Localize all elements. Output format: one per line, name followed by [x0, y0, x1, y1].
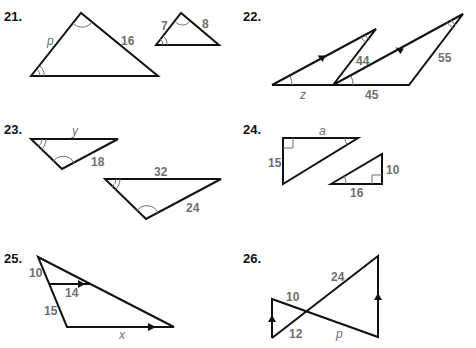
angle-mark-double — [38, 139, 42, 147]
side-label: 10 — [29, 266, 43, 280]
side-label: 45 — [365, 88, 379, 102]
side-label: z — [299, 88, 306, 102]
problem-24: 24. a 15 10 16 — [243, 122, 400, 200]
problem-26: 26. 10 24 12 p — [243, 251, 382, 341]
angle-mark-single — [290, 76, 292, 85]
large-triangle — [38, 257, 174, 327]
angle-mark-single — [73, 22, 92, 27]
triangle-1 — [31, 139, 118, 169]
right-triangle-2 — [331, 154, 382, 184]
side-label: 16 — [121, 34, 135, 48]
angle-mark-single — [175, 21, 190, 25]
parallel-arrow — [318, 54, 327, 62]
angle-mark-single — [345, 138, 347, 145]
side-label: 12 — [289, 327, 303, 341]
angle-mark-single — [351, 76, 353, 85]
side-label: 15 — [268, 156, 282, 170]
problem-number: 26. — [243, 251, 261, 266]
angle-mark-double — [40, 66, 44, 76]
angle-mark-double — [163, 36, 167, 45]
right-angle-mark — [372, 175, 382, 184]
problem-25: 25. 10 14 15 x — [4, 251, 174, 342]
problem-22: 22. z 44 45 55 — [243, 9, 463, 102]
problem-21: 21. p 16 7 8 — [4, 9, 219, 76]
side-label: 32 — [154, 165, 168, 179]
problem-number: 23. — [4, 122, 22, 137]
side-label: 24 — [186, 201, 200, 215]
right-angle-mark — [283, 138, 293, 148]
side-label: y — [71, 124, 79, 138]
problem-23: 23. y 18 32 24 — [4, 122, 221, 219]
side-label: 55 — [438, 51, 452, 65]
overlapping-triangles — [272, 14, 463, 85]
parallel-arrow — [148, 323, 156, 331]
angle-mark-double — [447, 22, 453, 28]
side-label: 16 — [350, 186, 364, 200]
side-label: 14 — [65, 286, 79, 300]
problem-number: 24. — [243, 122, 261, 137]
side-label: x — [118, 328, 126, 342]
side-label: 10 — [386, 163, 400, 177]
parallel-arrow — [268, 315, 276, 322]
side-label: 15 — [44, 304, 58, 318]
side-label: 10 — [286, 290, 300, 304]
problem-number: 21. — [4, 9, 22, 24]
angle-mark-double-inner — [37, 69, 40, 76]
angle-mark-single — [344, 176, 346, 184]
side-label: 24 — [331, 270, 345, 284]
side-label: 8 — [202, 17, 209, 31]
side-label: 18 — [91, 155, 105, 169]
parallel-arrow — [374, 293, 382, 300]
side-label: 44 — [356, 54, 370, 68]
angle-mark-double — [361, 37, 367, 43]
geometry-problems-figure: 21. p 16 7 8 22. z 44 45 55 23. — [0, 0, 476, 348]
side-label: p — [335, 327, 343, 341]
side-label: a — [319, 124, 326, 138]
angle-mark-double — [112, 179, 116, 187]
problem-number: 22. — [243, 9, 261, 24]
triangle-2 — [105, 179, 221, 219]
problem-number: 25. — [4, 251, 22, 266]
side-label: 7 — [161, 19, 168, 33]
angle-mark-double-inner — [451, 20, 456, 25]
side-label: p — [46, 34, 54, 48]
